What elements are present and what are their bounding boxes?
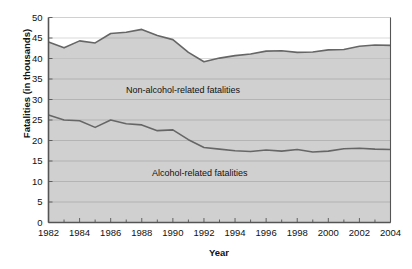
y-tick-label: 15: [11, 155, 43, 166]
y-tick-label: 40: [11, 53, 43, 64]
y-tick-label: 25: [11, 114, 43, 125]
y-tick-label: 10: [11, 176, 43, 187]
y-tick-label: 35: [11, 73, 43, 84]
y-tick-label: 45: [11, 32, 43, 43]
x-axis-title: Year: [48, 247, 390, 258]
x-tick-label: 2004: [371, 227, 411, 238]
y-tick-label: 20: [11, 135, 43, 146]
series-label-alcohol: Alcohol-related fatalities: [152, 168, 248, 178]
y-tick-label: 50: [11, 12, 43, 23]
chart-figure: Fatalities (in thousands) Year Non-alcoh…: [0, 0, 412, 269]
series-label-non-alcohol: Non-alcohol-related fatalities: [126, 85, 240, 95]
y-tick-label: 5: [11, 196, 43, 207]
y-tick-label: 30: [11, 94, 43, 105]
